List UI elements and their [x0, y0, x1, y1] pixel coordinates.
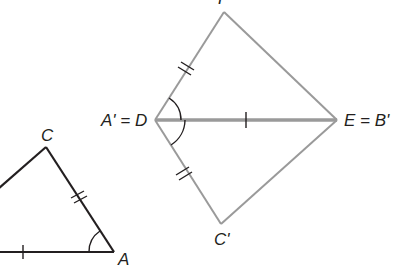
side-df — [155, 12, 224, 120]
side-fe — [224, 12, 337, 120]
angle-arc-a — [89, 231, 100, 252]
side-c-prime-e — [221, 120, 337, 224]
angle-arc-fde — [169, 98, 181, 120]
angle-arc-c-prime-de — [171, 120, 185, 145]
label-c: C — [41, 126, 54, 145]
original-triangle — [0, 147, 114, 259]
label-a: A — [117, 250, 129, 269]
double-tick-dc-prime — [176, 167, 192, 180]
label-f: F — [218, 0, 230, 8]
label-c-prime: C' — [214, 230, 230, 249]
congruence-diagram: C A F A' = D E = B' C' — [0, 0, 410, 277]
image-figure — [155, 12, 337, 224]
label-a-prime-d: A' = D — [100, 111, 147, 130]
label-e-b-prime: E = B' — [344, 111, 390, 130]
side-bc — [0, 147, 46, 189]
side-dc-prime — [155, 120, 221, 224]
